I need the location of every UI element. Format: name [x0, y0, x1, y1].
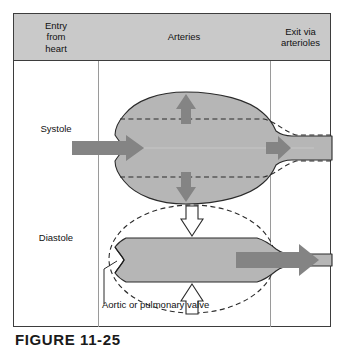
systole-diagram	[72, 92, 332, 204]
vessel-artwork	[14, 14, 332, 328]
figure-caption: FIGURE 11-25	[15, 331, 121, 348]
diastole-recoil-arrow-down	[181, 206, 203, 236]
diastole-diagram	[104, 205, 332, 314]
annotation-aortic-or-pulmonary-valve: Aortic or pulmonary valve	[102, 299, 209, 310]
valve-leader-line	[104, 261, 117, 304]
diagram-frame: Entry from heart Arteries Exit via arter…	[13, 13, 331, 327]
